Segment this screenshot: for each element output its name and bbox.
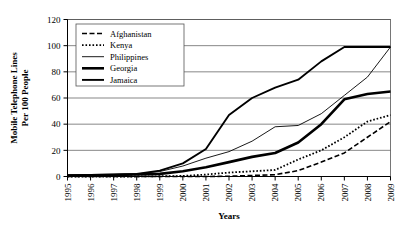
y-tick-label-20: 20 — [52, 146, 62, 156]
x-tick-label-1998: 1998 — [132, 183, 142, 202]
y-tick-label-40: 40 — [52, 119, 62, 129]
x-tick-label-2004: 2004 — [270, 183, 280, 202]
x-axis-title: Years — [218, 211, 240, 221]
x-tick-label-2000: 2000 — [178, 183, 188, 202]
x-tick-label-2006: 2006 — [316, 183, 326, 202]
y-tick-label-60: 60 — [52, 93, 62, 103]
x-tick-label-1996: 1996 — [86, 183, 96, 202]
x-tick-label-2008: 2008 — [363, 183, 373, 202]
x-tick-label-2003: 2003 — [247, 183, 257, 202]
series-line-georgia — [68, 91, 391, 175]
y-tick-label-0: 0 — [56, 172, 61, 182]
chart-container: 0204060801001201995199619971998199920002… — [0, 0, 419, 235]
x-tick-label-2002: 2002 — [224, 184, 234, 202]
y-axis-title: Mobile Telephone LinesPer 100 People — [9, 52, 30, 144]
x-tick-label-2001: 2001 — [201, 184, 211, 202]
y-tick-label-120: 120 — [47, 15, 61, 25]
line-chart: 0204060801001201995199619971998199920002… — [0, 0, 419, 235]
x-tick-label-1995: 1995 — [63, 183, 73, 202]
x-tick-label-2005: 2005 — [293, 183, 303, 202]
x-tick-label-1997: 1997 — [109, 183, 119, 202]
legend-label-afghanistan: Afghanistan — [110, 29, 152, 39]
x-tick-label-2007: 2007 — [340, 183, 350, 202]
legend-label-philippines: Philippines — [110, 52, 148, 62]
y-tick-label-100: 100 — [47, 41, 61, 51]
legend-label-kenya: Kenya — [110, 40, 132, 50]
legend-label-georgia: Georgia — [110, 63, 137, 73]
y-tick-label-80: 80 — [52, 67, 62, 77]
series-line-afghanistan — [68, 122, 391, 177]
x-tick-label-2009: 2009 — [386, 183, 396, 202]
x-tick-label-1999: 1999 — [155, 183, 165, 202]
legend-label-jamaica: Jamaica — [110, 75, 138, 85]
